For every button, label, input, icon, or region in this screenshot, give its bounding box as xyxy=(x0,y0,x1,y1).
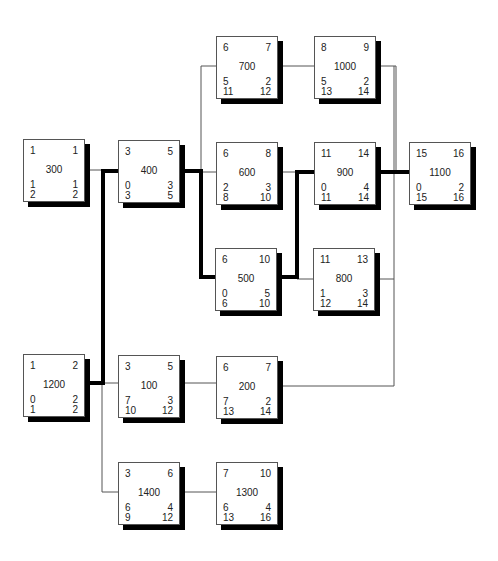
late-start: 9 xyxy=(125,512,131,523)
late-start: 13 xyxy=(321,86,332,97)
activity-id: 300 xyxy=(24,164,84,175)
early-start: 6 xyxy=(223,362,229,373)
late-finish: 16 xyxy=(453,192,464,203)
late-start: 2 xyxy=(30,189,36,200)
late-start: 10 xyxy=(125,405,136,416)
late-start: 12 xyxy=(320,298,331,309)
late-start: 11 xyxy=(223,86,233,97)
node-1400: 3 6 1400 6 4 9 12 xyxy=(118,462,180,525)
node-400: 3 5 400 0 3 3 5 xyxy=(118,140,180,203)
late-finish: 12 xyxy=(260,86,271,97)
early-finish: 7 xyxy=(265,42,271,53)
critical-link-400-500 xyxy=(180,171,216,277)
early-start: 3 xyxy=(125,146,131,157)
early-start: 6 xyxy=(222,254,228,265)
early-start: 6 xyxy=(223,148,229,159)
early-finish: 5 xyxy=(167,361,173,372)
late-start: 1 xyxy=(30,404,36,415)
early-finish: 6 xyxy=(167,468,173,479)
early-finish: 10 xyxy=(260,468,271,479)
late-finish: 2 xyxy=(72,404,78,415)
node-900: 11 14 900 0 4 11 14 xyxy=(314,142,376,205)
link-400-600 xyxy=(201,66,216,172)
early-start: 1 xyxy=(30,145,36,156)
activity-id: 700 xyxy=(217,61,277,72)
late-finish: 10 xyxy=(259,298,270,309)
early-finish: 16 xyxy=(453,148,464,159)
node-700: 6 7 700 5 2 11 12 xyxy=(216,36,278,99)
late-finish: 14 xyxy=(357,298,368,309)
early-start: 3 xyxy=(125,468,131,479)
activity-id: 1100 xyxy=(410,167,470,178)
early-finish: 13 xyxy=(357,254,368,265)
node-1100: 15 16 1100 0 2 15 16 xyxy=(409,142,471,205)
activity-id: 500 xyxy=(216,273,276,284)
late-start: 8 xyxy=(223,192,229,203)
node-1300: 7 10 1300 6 4 13 16 xyxy=(216,462,278,525)
early-finish: 7 xyxy=(265,362,271,373)
activity-id: 200 xyxy=(217,381,277,392)
node-200: 6 7 200 7 2 13 14 xyxy=(216,356,278,419)
late-start: 6 xyxy=(222,298,228,309)
early-start: 1 xyxy=(30,360,36,371)
late-finish: 10 xyxy=(260,192,271,203)
critical-link-500-900 xyxy=(278,172,314,277)
early-start: 15 xyxy=(416,148,427,159)
early-start: 8 xyxy=(321,42,327,53)
early-start: 11 xyxy=(321,148,331,159)
activity-id: 800 xyxy=(314,273,374,284)
late-finish: 5 xyxy=(167,190,173,201)
early-finish: 10 xyxy=(259,254,270,265)
early-finish: 1 xyxy=(72,145,78,156)
activity-id: 900 xyxy=(315,167,375,178)
late-finish: 14 xyxy=(358,86,369,97)
activity-id: 400 xyxy=(119,165,179,176)
early-start: 7 xyxy=(223,468,229,479)
late-finish: 16 xyxy=(260,512,271,523)
late-finish: 14 xyxy=(260,406,271,417)
early-start: 11 xyxy=(320,254,330,265)
early-start: 3 xyxy=(125,361,131,372)
early-start: 6 xyxy=(223,42,229,53)
early-finish: 5 xyxy=(167,146,173,157)
node-300: 1 1 300 1 1 2 2 xyxy=(23,139,85,202)
late-start: 13 xyxy=(223,406,234,417)
late-start: 3 xyxy=(125,190,131,201)
late-start: 15 xyxy=(416,192,427,203)
node-600: 6 8 600 2 3 8 10 xyxy=(216,142,278,205)
node-1000: 8 9 1000 5 2 13 14 xyxy=(314,36,376,99)
link-1000-1100 xyxy=(376,66,396,172)
early-finish: 9 xyxy=(363,42,369,53)
late-finish: 12 xyxy=(162,512,173,523)
late-start: 11 xyxy=(321,192,331,203)
early-finish: 8 xyxy=(265,148,271,159)
activity-id: 1200 xyxy=(24,379,84,390)
node-500: 6 10 500 0 5 6 10 xyxy=(215,248,277,311)
late-start: 13 xyxy=(223,512,234,523)
late-finish: 2 xyxy=(72,189,78,200)
early-finish: 14 xyxy=(358,148,369,159)
early-finish: 2 xyxy=(72,360,78,371)
critical-link-1200-400 xyxy=(84,171,118,383)
activity-id: 1000 xyxy=(315,61,375,72)
activity-id: 1300 xyxy=(217,487,277,498)
late-finish: 12 xyxy=(162,405,173,416)
node-100: 3 5 100 7 3 10 12 xyxy=(118,355,180,418)
link-1200-1400 xyxy=(102,383,118,492)
node-800: 11 13 800 1 3 12 14 xyxy=(313,248,375,311)
activity-id: 100 xyxy=(119,380,179,391)
late-finish: 14 xyxy=(358,192,369,203)
network-diagram: 1 1 300 1 1 2 2 3 5 400 0 3 3 5 6 7 700 … xyxy=(0,0,498,561)
node-1200: 1 2 1200 0 2 1 2 xyxy=(23,354,85,417)
activity-id: 1400 xyxy=(119,487,179,498)
activity-id: 600 xyxy=(217,167,277,178)
